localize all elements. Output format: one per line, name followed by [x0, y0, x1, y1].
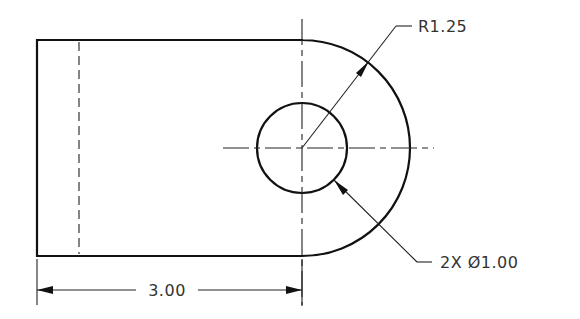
right-arrowhead-icon: [286, 286, 302, 294]
left-arrowhead-icon: [37, 286, 53, 294]
radius-label: R1.25: [418, 17, 467, 36]
length-dimension: 3.00: [37, 259, 302, 305]
length-label: 3.00: [148, 281, 186, 300]
radius-leader-line: [302, 26, 396, 148]
hole-dimension: 2X Ø1.00: [334, 180, 518, 272]
hole-label: 2X Ø1.00: [440, 253, 518, 272]
hole-leader-line: [334, 180, 417, 262]
hole-arrowhead-icon: [334, 180, 348, 195]
radius-dimension: R1.25: [302, 17, 467, 148]
technical-drawing: R1.25 2X Ø1.00 3.00: [0, 0, 580, 319]
